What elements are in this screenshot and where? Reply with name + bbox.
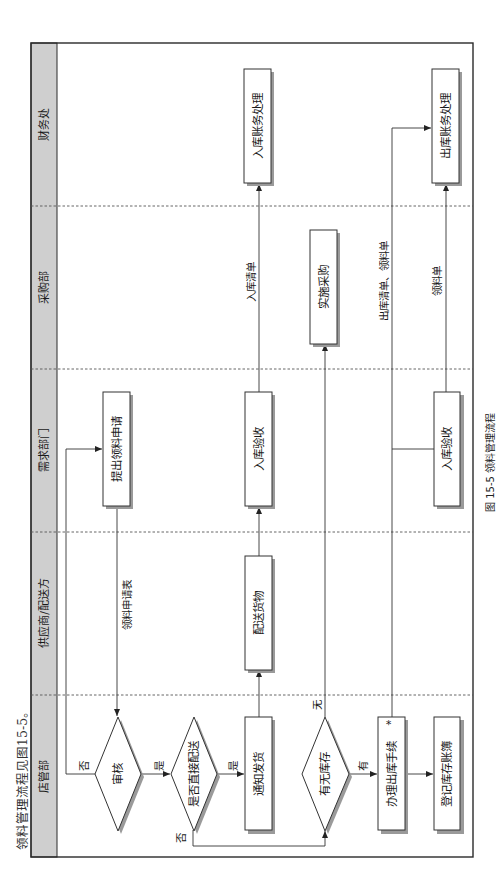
- edge-label-outbound-list: 出库清单、领料单: [378, 241, 390, 321]
- node-inbound-inspection-1: 入库验收: [245, 392, 275, 509]
- intro-text: 领料管理流程见图15-5。: [15, 705, 30, 850]
- outbound-asterisk: *: [386, 718, 392, 730]
- svg-text:出库账务处理: 出库账务处理: [439, 92, 453, 159]
- node-register-ledger: 登记库存账簿: [434, 717, 464, 834]
- node-deliver-goods: 配送货物: [245, 556, 275, 673]
- node-inbound-inspection-2: 入库验收: [434, 392, 464, 509]
- lane-label-requester: 需求部门: [37, 428, 51, 472]
- node-notify-shipment: 通知发货: [245, 717, 275, 834]
- edge-label-stock-none: 无: [311, 699, 323, 710]
- svg-text:办理出库手续: 办理出库手续: [385, 741, 399, 807]
- figure-caption: 图 15-5 领料管理流程: [484, 413, 496, 512]
- svg-text:入库验收: 入库验收: [252, 426, 266, 471]
- svg-text:入库验收: 入库验收: [440, 426, 454, 471]
- edge-label-stock-have: 有: [357, 761, 369, 771]
- node-outbound-accounting: 出库账务处理: [432, 69, 462, 186]
- lane-label-supplier: 供应商/配送方: [37, 578, 51, 648]
- edge-label-direct-no: 否: [175, 832, 187, 843]
- svg-text:登记库存账簿: 登记库存账簿: [440, 741, 454, 807]
- svg-text:通知发货: 通知发货: [252, 752, 266, 796]
- edge-label-review-yes: 是: [153, 760, 165, 771]
- svg-text:有无库存: 有无库存: [318, 752, 332, 796]
- lane-label-finance: 财务处: [37, 108, 51, 141]
- edge-label-inbound-list: 入库清单: [245, 262, 257, 302]
- node-outbound-procedure: 办理出库手续 *: [378, 717, 408, 834]
- lane-label-purchasing: 采购部: [37, 271, 51, 304]
- node-direct-delivery-decision: 是否直接配送: [171, 717, 220, 834]
- svg-text:提出领料申请: 提出领料申请: [110, 415, 124, 482]
- swimlane-flowchart: 领料管理流程见图15-5。 图 15-5 领料管理流程 财务处 采购部 需求部门…: [0, 0, 504, 884]
- node-stock-check-decision: 有无库存: [302, 717, 352, 834]
- node-purchase: 实施采购: [310, 230, 340, 347]
- node-submit-request: 提出领料申请: [103, 392, 133, 509]
- edge-label-review-no: 否: [78, 760, 90, 771]
- edge-outbound-to-accounting: [392, 128, 431, 717]
- svg-text:配送货物: 配送货物: [252, 591, 266, 635]
- edge-label-requisition: 领料单: [431, 266, 443, 296]
- edge-review-no: [66, 449, 102, 774]
- svg-text:审核: 审核: [111, 762, 125, 785]
- svg-text:入库账务处理: 入库账务处理: [251, 92, 265, 159]
- svg-text:实施采购: 实施采购: [317, 265, 331, 309]
- node-inbound-accounting: 入库账务处理: [244, 69, 274, 186]
- svg-text:是否直接配送: 是否直接配送: [187, 740, 201, 807]
- lane-label-store-mgmt: 店管部: [37, 760, 51, 793]
- node-review-decision: 审核: [95, 717, 144, 834]
- edge-label-direct-yes: 是: [227, 760, 239, 771]
- edge-label-request-form: 领料申请表: [121, 579, 133, 630]
